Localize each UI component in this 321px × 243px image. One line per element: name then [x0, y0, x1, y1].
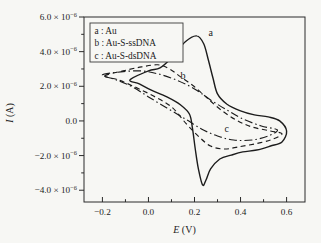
- x-axis-tick-label: 0.4: [235, 207, 247, 217]
- curve-c: [102, 71, 277, 141]
- x-axis-tick-label: −0.2: [94, 207, 111, 217]
- curve-label-b: b: [180, 70, 185, 81]
- y-axis-tick-label: 0.0: [66, 116, 78, 126]
- x-axis-tick-label: 0.6: [281, 207, 293, 217]
- y-axis-tick-label: −2.0 × 10−6: [35, 149, 77, 161]
- cv-chart: −0.20.00.20.40.66.0 × 10−64.0 × 10−62.0 …: [0, 0, 321, 243]
- y-axis-tick-label: 2.0 × 10−6: [40, 80, 77, 92]
- legend-entry-b: b : Au-S-ssDNA: [95, 38, 157, 48]
- x-axis-title: E (V): [172, 224, 196, 236]
- x-axis-tick-label: 0.2: [189, 207, 201, 217]
- curve-label-a: a: [208, 27, 213, 38]
- y-axis-tick-label: 6.0 × 10−6: [40, 11, 77, 23]
- y-axis-tick-label: 4.0 × 10−6: [40, 45, 77, 57]
- y-axis-title: I (A): [4, 103, 16, 124]
- legend-entry-a: a : Au: [95, 26, 118, 36]
- cv-figure: −0.20.00.20.40.66.0 × 10−64.0 × 10−62.0 …: [0, 0, 321, 243]
- y-axis-tick-label: −4.0 × 10−6: [35, 184, 77, 196]
- curve-label-c: c: [225, 123, 230, 134]
- x-axis-tick-label: 0.0: [143, 207, 155, 217]
- legend-entry-c: c : Au-S-dsDNA: [95, 51, 157, 61]
